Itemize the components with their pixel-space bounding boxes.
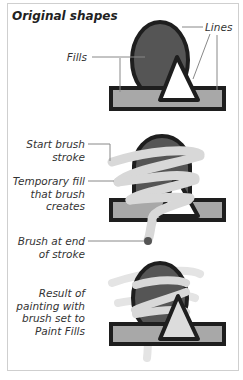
label-line: painting with (16, 300, 85, 313)
label-result: Result of painting with brush set to Pai… (16, 287, 85, 337)
label-line: Paint Fills (16, 325, 85, 338)
label-line: Start brush (26, 138, 85, 151)
label-line: Temporary fill (13, 175, 85, 188)
brush-in-progress (88, 136, 224, 245)
label-line: brush set to (16, 312, 85, 325)
label-line: Brush at end (18, 235, 85, 248)
label-lines: Lines (205, 21, 232, 34)
label-line: creates (13, 200, 85, 213)
label-line: that brush (13, 188, 85, 201)
temporary-fill-brush (112, 151, 200, 240)
label-line: stroke (26, 151, 85, 164)
label-brush-end: Brush at end of stroke (18, 235, 85, 260)
original-shapes (92, 22, 224, 109)
label-fills: Fills (67, 51, 87, 64)
label-line: of stroke (18, 248, 85, 261)
paint-fills-result (111, 263, 224, 358)
label-line: Result of (16, 287, 85, 300)
label-start-brush: Start brush stroke (26, 138, 85, 163)
label-temporary-fill: Temporary fill that brush creates (13, 175, 85, 213)
brush-end-dot (144, 237, 152, 245)
